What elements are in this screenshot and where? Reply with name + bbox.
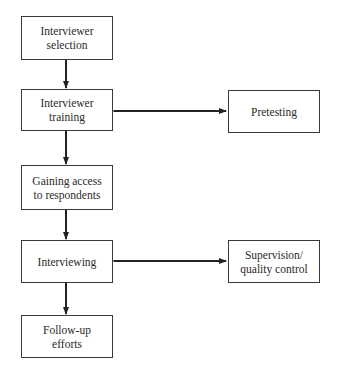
label-pretesting: Pretesting (251, 105, 297, 119)
box-interviewer-training: Interviewer training (21, 89, 113, 131)
box-interviewer-selection: Interviewer selection (21, 16, 113, 60)
box-pretesting: Pretesting (228, 90, 320, 133)
box-interviewing: Interviewing (21, 240, 113, 283)
label-interviewer-training: Interviewer training (41, 96, 94, 124)
label-interviewing: Interviewing (38, 255, 97, 269)
label-gaining-access: Gaining access to respondents (32, 174, 101, 202)
label-supervision: Supervision/ quality control (240, 248, 307, 276)
label-follow-up: Follow-up efforts (43, 323, 91, 351)
box-gaining-access: Gaining access to respondents (21, 165, 113, 210)
label-interviewer-selection: Interviewer selection (41, 24, 94, 52)
box-follow-up: Follow-up efforts (21, 315, 113, 358)
box-supervision: Supervision/ quality control (228, 240, 320, 283)
